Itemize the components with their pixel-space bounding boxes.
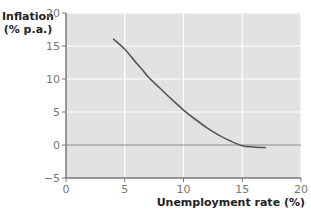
y-tick-label: 20	[46, 7, 60, 20]
y-tick-label: 10	[46, 73, 60, 86]
x-tick-label: 15	[235, 183, 249, 196]
x-tick-label: 5	[121, 183, 128, 196]
x-tick-label: 20	[294, 183, 308, 196]
y-tick-label: −5	[44, 172, 60, 185]
y-tick-label: 5	[53, 106, 60, 119]
phillips-curve-chart: 05101520−505101520	[0, 0, 311, 216]
y-tick-label: 15	[46, 40, 60, 53]
x-tick-label: 10	[177, 183, 191, 196]
y-tick-label: 0	[53, 139, 60, 152]
x-tick-label: 0	[63, 183, 70, 196]
